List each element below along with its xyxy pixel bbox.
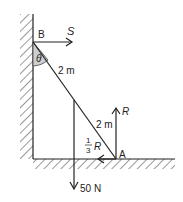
angle-theta-label: θ <box>36 53 42 64</box>
diagram-canvas: B S θ 2 m 2 m R A 1 3 R 50 N <box>0 0 183 202</box>
segment-lower-label: 2 m <box>96 119 113 130</box>
point-a-label: A <box>119 149 126 160</box>
force-r-label: R <box>122 106 129 117</box>
weight-arrow <box>70 100 78 189</box>
point-b-label: B <box>38 29 45 40</box>
friction-coeff-num: 1 <box>86 136 91 145</box>
force-s-label: S <box>67 25 75 37</box>
weight-label: 50 N <box>80 183 101 194</box>
segment-upper-label: 2 m <box>58 65 75 76</box>
wall <box>20 14 33 159</box>
friction-coeff-den: 3 <box>86 146 91 155</box>
friction-r-label: R <box>94 141 101 152</box>
floor <box>33 159 175 169</box>
